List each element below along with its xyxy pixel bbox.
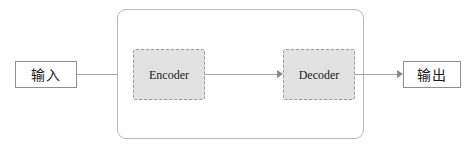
output-node-label: 输出 — [417, 68, 447, 82]
decoder-module-label: Decoder — [299, 69, 340, 81]
diagram-canvas: 输入 Encoder Decoder 输出 — [0, 0, 473, 148]
encoder-module-label: Encoder — [149, 69, 189, 81]
input-node-label: 输入 — [31, 68, 61, 82]
connector-encoder-to-decoder — [205, 74, 278, 75]
connector-decoder-to-output — [355, 74, 398, 75]
output-node: 输出 — [403, 61, 461, 88]
decoder-module: Decoder — [283, 49, 355, 100]
input-node: 输入 — [15, 61, 77, 88]
encoder-module: Encoder — [133, 49, 205, 100]
